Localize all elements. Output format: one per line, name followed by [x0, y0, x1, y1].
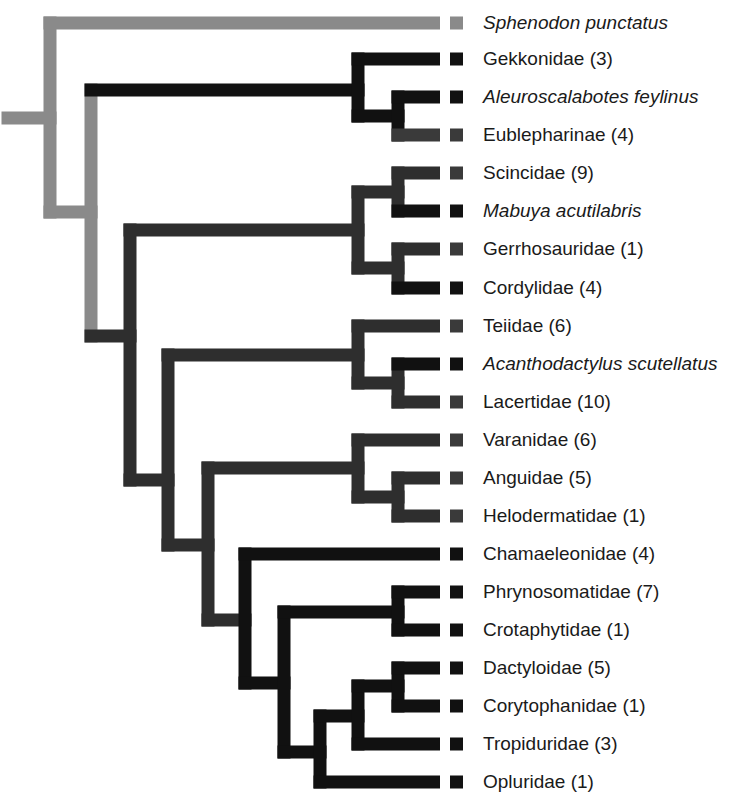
taxon-label: Phrynosomatidae (7) [483, 580, 659, 604]
taxon-label: Gerrhosauridae (1) [483, 237, 644, 261]
taxon-label: Cordylidae (4) [483, 276, 602, 300]
taxon-label: Chamaeleonidae (4) [483, 542, 655, 566]
taxon-label: Scincidae (9) [483, 161, 594, 185]
taxon-label: Opluridae (1) [483, 770, 594, 794]
taxon-label: Helodermatidae (1) [483, 504, 646, 528]
taxon-label: Tropiduridae (3) [483, 732, 617, 756]
taxon-label: Eublepharinae (4) [483, 123, 634, 147]
taxon-label: Crotaphytidae (1) [483, 618, 630, 642]
taxon-label: Varanidae (6) [483, 428, 597, 452]
taxon-label: Dactyloidae (5) [483, 656, 611, 680]
taxon-labels: Sphenodon punctatusGekkonidae (3)Aleuros… [0, 0, 750, 806]
taxon-label: Sphenodon punctatus [483, 11, 668, 35]
taxon-label: Corytophanidae (1) [483, 694, 646, 718]
taxon-label: Lacertidae (10) [483, 390, 611, 414]
taxon-label: Acanthodactylus scutellatus [483, 352, 717, 376]
taxon-label: Mabuya acutilabris [483, 199, 641, 223]
taxon-label: Teiidae (6) [483, 314, 572, 338]
taxon-label: Anguidae (5) [483, 466, 592, 490]
taxon-label: Gekkonidae (3) [483, 47, 613, 71]
taxon-label: Aleuroscalabotes feylinus [483, 85, 698, 109]
